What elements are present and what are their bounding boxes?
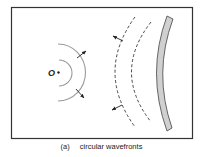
incident-direction-arrows <box>76 51 86 98</box>
arrow-icon <box>112 105 122 110</box>
point-source: O <box>48 68 60 78</box>
curved-mirror <box>157 16 174 131</box>
caption-text: circular wavefronts <box>80 142 143 151</box>
wavefront-diagram: O <box>0 0 203 157</box>
arrow-icon <box>113 36 123 41</box>
reflected-wavefront-outer <box>132 22 152 122</box>
reflected-wavefronts <box>115 17 151 127</box>
figure-tag: (a) <box>61 142 70 151</box>
reflected-direction-arrows <box>112 36 123 110</box>
figure-caption: (a) circular wavefronts <box>0 142 203 151</box>
incident-wavefronts <box>58 44 85 101</box>
source-label: O <box>48 68 55 78</box>
incident-wavefront-inner <box>59 60 72 86</box>
reflected-wavefront-inner <box>115 17 135 127</box>
source-dot <box>57 71 59 73</box>
